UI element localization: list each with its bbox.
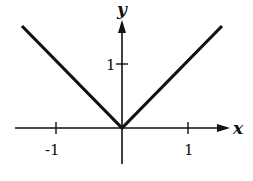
y-tick-label-1: 1 [106, 56, 116, 74]
y-axis-label: y [116, 0, 128, 19]
y-axis-arrow-icon [118, 20, 126, 33]
x-tick-label-neg1: -1 [45, 141, 60, 159]
x-axis-arrow-icon [217, 124, 230, 132]
x-tick-label-1: 1 [184, 141, 194, 159]
absolute-value-graph: x y -1 1 1 [0, 0, 253, 181]
x-axis-label: x [232, 118, 244, 138]
